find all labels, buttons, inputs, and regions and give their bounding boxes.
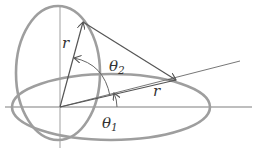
arc-theta2 xyxy=(74,58,110,96)
theta1-symbol: θ xyxy=(102,114,111,132)
label-r-horizontal: r xyxy=(153,84,160,99)
theta1-subscript: 1 xyxy=(111,121,118,133)
label-theta2: θ2 xyxy=(109,59,125,75)
label-r-vertical-text: r xyxy=(62,34,69,52)
label-theta1: θ1 xyxy=(102,116,118,132)
label-r-horizontal-text: r xyxy=(153,82,160,100)
theta2-subscript: 2 xyxy=(118,64,125,76)
diagram-canvas xyxy=(0,0,256,150)
spherical-angle-diagram: r r θ2 θ1 xyxy=(0,0,256,150)
theta2-symbol: θ xyxy=(109,57,118,75)
vertical-ellipse xyxy=(16,6,100,140)
label-r-vertical: r xyxy=(62,36,69,51)
arc-theta1 xyxy=(114,93,117,107)
